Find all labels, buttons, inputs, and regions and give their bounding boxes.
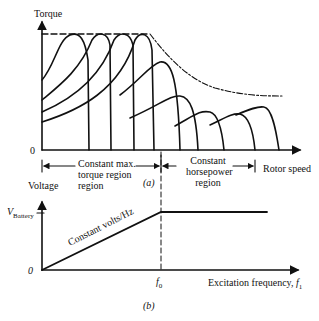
voltage-axis-label: Voltage [28,180,58,191]
torque-origin-label: 0 [30,145,35,156]
region1-line3: region [78,180,136,191]
rotor-speed-label: Rotor speed [263,163,311,174]
constant-horsepower-region-label: Constant horsepower region [186,155,230,188]
f0-label: f0 [156,276,162,292]
region2-line2: horsepower [186,166,230,177]
constant-max-torque-region-label: Constant max. torque region region [78,158,136,191]
torque-axis-label: Torque [34,8,62,19]
motor-torque-speed-figure: Torque 0 Rotor speed Constant max. torqu… [0,0,319,321]
xf-sub: 1 [299,283,303,291]
xf-text: Excitation frequency, [208,277,296,288]
region1-line2: torque region [78,169,136,180]
region2-line3: region [186,177,230,188]
caption-b: (b) [143,300,155,311]
caption-a: (a) [143,177,155,188]
f0-sub: 0 [159,282,163,290]
region1-line1: Constant max. [78,158,136,169]
region2-line1: Constant [186,155,230,166]
v-battery-label: VBattery [7,206,34,222]
voltage-origin-label: 0 [28,265,33,276]
figure-graphics [0,0,319,321]
v-sub: Battery [13,212,34,220]
excitation-frequency-label: Excitation frequency, f1 [208,277,302,293]
